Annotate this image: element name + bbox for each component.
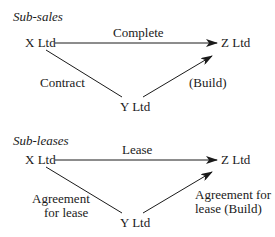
node-x-ltd: X Ltd [25, 153, 56, 166]
edge-label-lease: Lease [122, 143, 152, 156]
node-z-ltd: Z Ltd [221, 153, 250, 166]
edge-label-for-lease: for lease [44, 206, 88, 219]
diagram-title: Sub-leases [13, 134, 69, 147]
edge-label-contract: Contract [40, 76, 85, 89]
edge-label-complete: Complete [113, 26, 164, 39]
edge-label-agreement: Agreement [32, 192, 90, 205]
node-z-ltd: Z Ltd [221, 36, 250, 49]
edge-label-agreement-for: Agreement for [195, 188, 271, 201]
edge-label-build: (Build) [189, 76, 227, 89]
node-y-ltd: Y Ltd [120, 216, 150, 229]
edge-label-lease-build: lease (Build) [195, 202, 262, 215]
node-y-ltd: Y Ltd [120, 100, 150, 113]
node-x-ltd: X Ltd [25, 36, 56, 49]
diagram-title: Sub-sales [13, 10, 63, 23]
